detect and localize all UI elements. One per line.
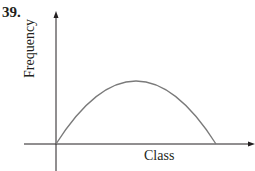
y-axis-label: Frequency [22, 19, 38, 78]
frequency-curve [56, 81, 216, 144]
y-axis-arrow-icon [54, 11, 59, 18]
frequency-chart [0, 0, 255, 171]
x-axis-label: Class [144, 148, 174, 164]
x-axis-arrow-icon [248, 142, 255, 147]
